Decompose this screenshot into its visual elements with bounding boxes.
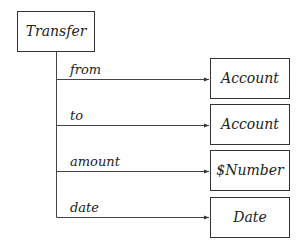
node-account-1: Account — [211, 59, 290, 99]
edge-to-label: to — [70, 108, 83, 123]
node-number-label: $Number — [216, 162, 285, 178]
edge-to: to — [57, 108, 210, 126]
node-account-1-label: Account — [219, 70, 279, 86]
node-transfer: Transfer — [18, 12, 95, 52]
node-account-2-label: Account — [219, 116, 279, 132]
edge-from-label: from — [69, 62, 101, 77]
edge-amount: amount — [57, 154, 210, 172]
node-number: $Number — [211, 151, 290, 191]
node-date: Date — [211, 198, 290, 238]
node-date-label: Date — [232, 209, 266, 225]
edge-date-label: date — [70, 200, 99, 215]
node-account-2: Account — [211, 105, 290, 145]
edge-amount-label: amount — [70, 154, 121, 169]
node-transfer-label: Transfer — [26, 23, 88, 39]
edge-date: date — [57, 200, 210, 218]
edge-from: from — [57, 62, 210, 80]
transfer-diagram: Transfer from Account to Account amount … — [0, 0, 302, 247]
